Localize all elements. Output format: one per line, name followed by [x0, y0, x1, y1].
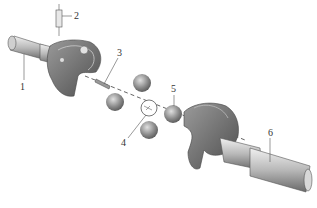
center-ball	[141, 100, 157, 116]
ball-bottom	[140, 121, 158, 139]
right-shaft-yoke	[184, 103, 312, 192]
label-4: 4	[121, 138, 126, 148]
ball-right	[164, 105, 182, 123]
label-2: 2	[74, 11, 79, 21]
label-1: 1	[20, 82, 25, 92]
label-5: 5	[171, 84, 176, 94]
locating-pin	[56, 4, 62, 36]
ball-top	[133, 74, 151, 92]
center-ball-pin	[95, 79, 110, 89]
ball-left	[106, 93, 124, 111]
label-3: 3	[117, 48, 122, 58]
cv-joint-exploded-diagram	[0, 0, 317, 208]
label-6: 6	[268, 128, 273, 138]
diagram-canvas: 1 2 3 4 5 6	[0, 0, 317, 208]
